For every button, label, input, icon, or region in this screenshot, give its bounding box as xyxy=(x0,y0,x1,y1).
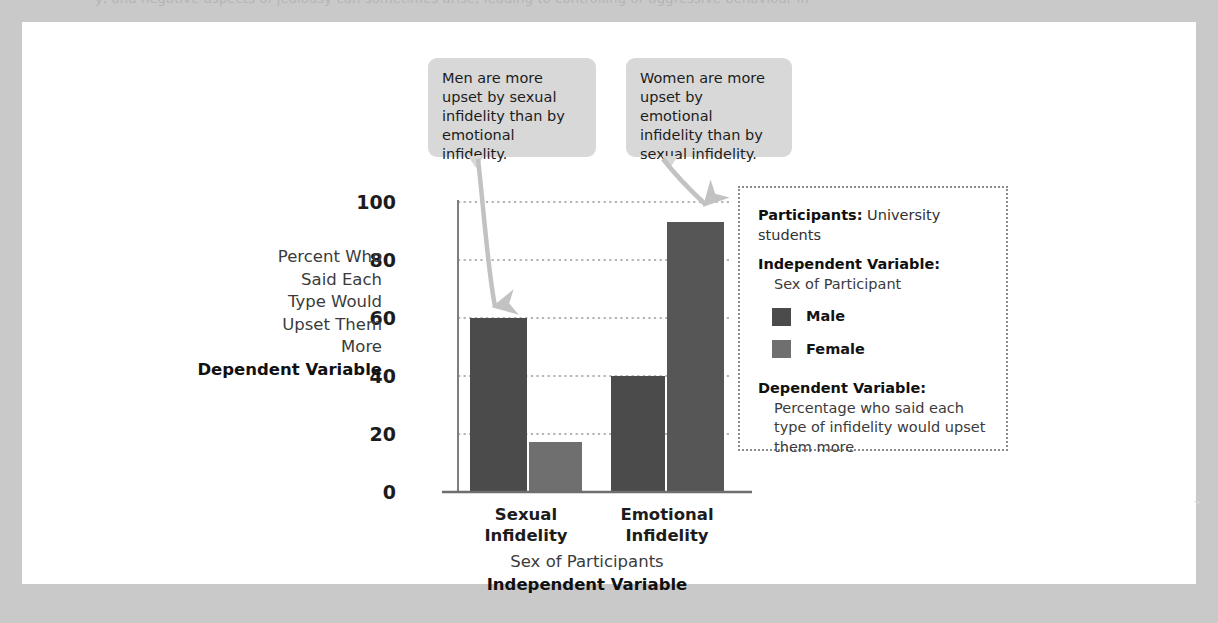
page-top-text-strip: y, and negative aspects of jealousy can … xyxy=(0,0,1218,13)
legend-swatch-male xyxy=(772,308,791,326)
x-tick-emotional-infidelity: Emotional Infidelity xyxy=(592,504,742,546)
legend-participants-row: Participants: University students xyxy=(758,206,990,245)
legend-swatch-female xyxy=(772,340,791,358)
legend-iv-label: Independent Variable: xyxy=(758,256,940,272)
x-tick-emotional-line2: Infidelity xyxy=(625,526,708,545)
y-axis-label-bold: Dependent Variable xyxy=(197,360,382,379)
x-axis-label-bold: Independent Variable xyxy=(487,575,688,594)
callout-men: Men are more upset by sexual infidelity … xyxy=(428,58,596,157)
callout-women: Women are more upset by emotional infide… xyxy=(626,58,792,157)
y-axis-label-line5: More xyxy=(341,337,382,356)
y-axis-label: Percent Who Said Each Type Would Upset T… xyxy=(197,246,382,381)
legend-participants-label: Participants: xyxy=(758,207,863,223)
legend-dv-row: Dependent Variable: Percentage who said … xyxy=(758,379,990,457)
callout-men-tail xyxy=(468,156,484,168)
x-tick-emotional-line1: Emotional xyxy=(620,505,713,524)
legend-item-female[interactable]: Female xyxy=(772,340,990,360)
legend-iv-row: Independent Variable: Sex of Participant xyxy=(758,255,990,294)
legend-iv-value: Sex of Participant xyxy=(758,275,990,295)
bar-male-emotional xyxy=(611,376,665,492)
bar-chart: 100 80 60 40 20 0 Percent Who Said Each … xyxy=(22,22,1196,584)
x-tick-sexual-line1: Sexual xyxy=(495,505,557,524)
callout-women-tail xyxy=(662,156,678,168)
x-axis-label: Sex of Participants Independent Variable xyxy=(427,550,747,596)
legend-dv-label: Dependent Variable: xyxy=(758,380,926,396)
legend-label-male: Male xyxy=(806,307,845,327)
y-axis-label-line2: Said Each xyxy=(301,270,382,289)
y-axis-label-line3: Type Would xyxy=(288,292,382,311)
callout-men-text: Men are more upset by sexual infidelity … xyxy=(442,70,565,162)
y-axis-label-line1: Percent Who xyxy=(278,247,382,266)
legend-item-male[interactable]: Male xyxy=(772,307,990,327)
legend-panel: Participants: University students Indepe… xyxy=(738,186,1008,451)
y-tick-0: 0 xyxy=(334,481,396,503)
bar-male-sexual xyxy=(470,318,527,492)
y-axis-label-line4: Upset Them xyxy=(282,315,382,334)
figure-card: 100 80 60 40 20 0 Percent Who Said Each … xyxy=(22,22,1196,584)
x-tick-sexual-infidelity: Sexual Infidelity xyxy=(451,504,601,546)
bar-female-emotional xyxy=(667,222,724,492)
y-tick-100: 100 xyxy=(334,191,396,213)
x-tick-sexual-line2: Infidelity xyxy=(484,526,567,545)
bar-female-sexual xyxy=(529,442,582,492)
y-tick-20: 20 xyxy=(334,423,396,445)
top-strip-text: y, and negative aspects of jealousy can … xyxy=(95,0,809,6)
legend-label-female: Female xyxy=(806,340,865,360)
scan-artifact: ⌁ xyxy=(1194,495,1206,509)
x-axis-label-plain: Sex of Participants xyxy=(510,552,663,571)
legend-dv-value: Percentage who said each type of infidel… xyxy=(758,399,990,458)
callout-women-text: Women are more upset by emotional infide… xyxy=(640,70,765,162)
